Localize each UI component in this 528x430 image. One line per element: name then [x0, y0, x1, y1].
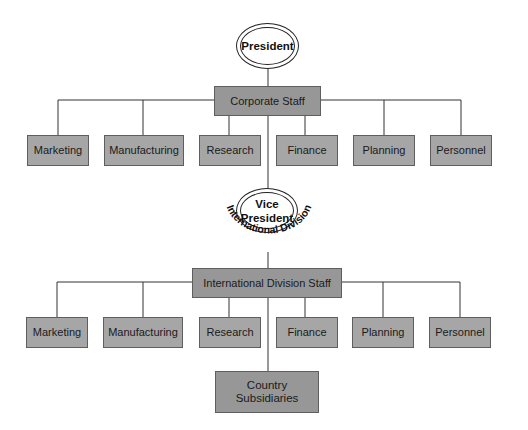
svg-text:International Division: International Division: [225, 203, 314, 236]
international-staff-label: International Division Staff: [203, 277, 331, 290]
subs-line1: Country: [247, 379, 287, 391]
country-subsidiaries-label: Country Subsidiaries: [236, 379, 299, 405]
intl-dept-research: Research: [199, 317, 261, 348]
intl-dept-personnel: Personnel: [429, 317, 491, 348]
dept-label: Marketing: [33, 326, 81, 339]
intl-dept-finance: Finance: [276, 317, 338, 348]
international-staff-box: International Division Staff: [192, 268, 342, 298]
dept-label: Finance: [287, 326, 326, 339]
intl-dept-marketing: Marketing: [26, 317, 88, 348]
intl-dept-planning: Planning: [352, 317, 414, 348]
subs-line2: Subsidiaries: [236, 392, 299, 404]
intl-dept-manufacturing: Manufacturing: [103, 317, 183, 348]
dept-label: Manufacturing: [108, 326, 178, 339]
dept-label: Research: [206, 326, 253, 339]
arc-text: International Division: [225, 203, 314, 236]
international-division-arc-label: International Division: [0, 0, 528, 430]
dept-label: Personnel: [435, 326, 485, 339]
dept-label: Planning: [362, 326, 405, 339]
country-subsidiaries-box: Country Subsidiaries: [215, 371, 319, 413]
